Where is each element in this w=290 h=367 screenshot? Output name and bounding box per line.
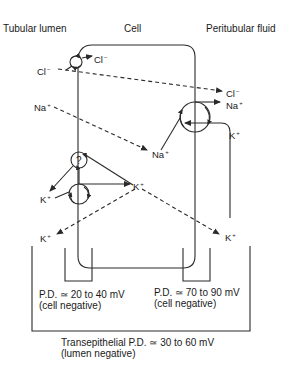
label-peritubular-fluid: Peritubular fluid [206, 23, 275, 34]
transepithelial-pd-note: (lumen negative) [61, 348, 135, 359]
basolateral-pd-bracket [183, 248, 210, 281]
label-tubular-lumen: Tubular lumen [3, 23, 67, 34]
label-cell: Cell [124, 23, 141, 34]
na-diffusion-arrow [54, 107, 147, 150]
ion-na-peritubular: Na+ [226, 98, 243, 111]
ion-cl-lumen: Cl− [37, 64, 51, 77]
basolateral-pd-value: P.D. ≃ 70 to 90 mV [154, 287, 240, 298]
ion-na-lumen: Na+ [34, 100, 51, 113]
ion-k-lumen-upper: K+ [40, 192, 51, 205]
cell-membrane [78, 45, 195, 268]
ion-k-cell: K+ [133, 179, 144, 192]
ion-k-peritubular-bottom: K+ [225, 230, 236, 243]
k-peri-diffusion-arrow [142, 189, 219, 234]
question-mark: ? [76, 155, 82, 166]
apical-pd-note: (cell negative) [39, 300, 101, 311]
ion-na-cell: Na+ [152, 147, 169, 160]
transport-diagram: ? [0, 0, 290, 367]
ion-k-lumen-lower: K+ [40, 231, 51, 244]
ion-k-peritubular-top: K+ [229, 128, 240, 141]
transepithelial-pd-value: Transepithelial P.D. ≃ 30 to 60 mV [61, 337, 214, 348]
cl-diffusion-arrow [58, 69, 222, 91]
basolateral-pd-note: (cell negative) [154, 298, 216, 309]
ion-cl-cell: Cl− [94, 52, 108, 65]
apical-pd-value: P.D. ≃ 20 to 40 mV [39, 289, 125, 300]
